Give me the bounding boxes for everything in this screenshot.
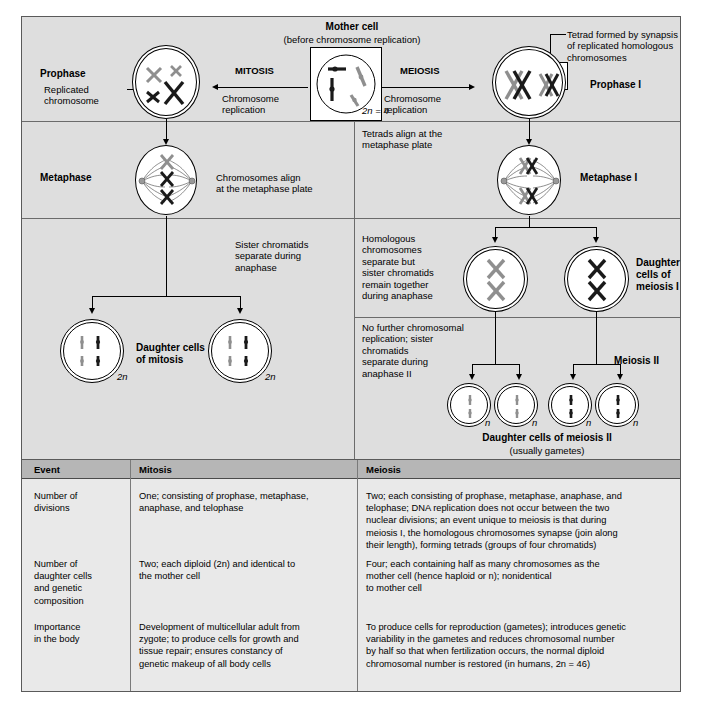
meiosis-i-branch-bar bbox=[495, 227, 596, 228]
mitosis-arrowhead bbox=[212, 84, 218, 90]
gamete-1-ploidy: n bbox=[485, 417, 490, 428]
daughter-cells-of-meiosis-ii-label: Daughter cells of meiosis II bbox=[422, 432, 672, 443]
metaphase-spindle bbox=[136, 146, 198, 216]
table-col-divider-2 bbox=[357, 460, 358, 691]
prophase-to-metaphase-line bbox=[166, 119, 167, 141]
usually-gametes-label: (usually gametes) bbox=[422, 445, 672, 456]
meiosis-i-stem bbox=[529, 216, 530, 227]
gamete-2-ploidy: n bbox=[532, 417, 537, 428]
mitosis-branch-bar bbox=[92, 296, 241, 297]
prophase-i-to-metaphase-i-line bbox=[529, 119, 530, 141]
metaphase-cell bbox=[135, 145, 197, 215]
mitosis-daughter-cell-left bbox=[60, 319, 124, 383]
tetrad-callout: Tetrad formed by synapsis of replicated … bbox=[567, 29, 685, 63]
meiosis-i-right-chromosomes bbox=[565, 247, 630, 313]
no-further-replication-note: No further chromosomal replication; sist… bbox=[362, 322, 472, 379]
row-divider-2 bbox=[22, 218, 680, 219]
daughter-cells-of-mitosis-label: Daughter cells of mitosis bbox=[136, 342, 206, 366]
replicated-chromosome-callout: Replicated chromosome bbox=[44, 84, 132, 107]
prophase-cell bbox=[132, 45, 200, 119]
metaphase-note: Chromosomes align at the metaphase plate bbox=[216, 172, 346, 195]
table-row: Two; each consisting of prophase, metaph… bbox=[366, 490, 676, 551]
table-row: Importance in the body bbox=[34, 621, 126, 645]
mitosis-daughter-cell-right bbox=[208, 319, 272, 383]
meiosis-ii-stem-right bbox=[596, 311, 597, 364]
meiosis-ii-stem-left bbox=[495, 311, 496, 364]
meiosis-arrow-line bbox=[382, 87, 469, 88]
gamete-3-ploidy: n bbox=[586, 417, 591, 428]
mitosis-branch-stem bbox=[166, 216, 167, 296]
table-row: Development of multicellular adult from … bbox=[139, 621, 351, 670]
table-row: To produce cells for reproduction (gamet… bbox=[366, 621, 676, 670]
mother-cell-title: Mother cell bbox=[277, 21, 427, 32]
mitosis-arrow-line bbox=[218, 87, 308, 88]
meiosis-arrow-label: MEIOSIS bbox=[400, 65, 440, 76]
table-row: Two; each diploid (2n) and identical to … bbox=[139, 558, 351, 582]
mitosis-arrow-label: MITOSIS bbox=[235, 65, 274, 76]
meiosis-ii-bar-left bbox=[472, 364, 519, 365]
row-divider-3 bbox=[354, 317, 680, 318]
table-row: Four; each containing half as many chrom… bbox=[366, 558, 676, 595]
metaphase-i-stage-label: Metaphase I bbox=[580, 172, 637, 183]
table-col-divider-1 bbox=[130, 460, 131, 691]
metaphase-stage-label: Metaphase bbox=[40, 172, 92, 183]
table-row: Number of divisions bbox=[34, 490, 126, 514]
daughter-cells-of-meiosis-i-label: Daughter cells of meiosis I bbox=[636, 257, 688, 293]
comparison-table: Event Mitosis Meiosis Number of division… bbox=[21, 459, 681, 692]
mitosis-daughter-left-arrow bbox=[89, 308, 95, 314]
table-row: One; consisting of prophase, metaphase, … bbox=[139, 490, 351, 514]
prophase-i-stage-label: Prophase I bbox=[590, 79, 641, 90]
homologous-separation-note: Homologous chromosomes separate but sist… bbox=[362, 233, 450, 301]
mitosis-daughter-right-ploidy: 2n bbox=[265, 371, 276, 382]
meiosis-i-left-arrow bbox=[492, 237, 498, 243]
prophase-stage-label: Prophase bbox=[40, 68, 86, 79]
meiosis-i-daughter-left bbox=[463, 246, 528, 312]
meiosis-arrowhead bbox=[469, 84, 475, 90]
prophase-chromosomes bbox=[133, 46, 201, 120]
metaphase-i-cell bbox=[497, 145, 561, 215]
meiosis-ii-arrow-4 bbox=[617, 374, 623, 380]
mitosis-daughter-left-ploidy: 2n bbox=[117, 371, 128, 382]
prophase-i-cell bbox=[492, 46, 566, 119]
column-divider bbox=[354, 121, 355, 459]
table-row: Number of daughter cells and genetic com… bbox=[34, 558, 126, 607]
daughter-cell-right-chromosomes bbox=[209, 320, 273, 384]
table-header-meiosis: Meiosis bbox=[366, 464, 401, 475]
meiosis-ii-bar-right bbox=[573, 364, 620, 365]
prophase-i-chromosomes bbox=[493, 47, 567, 120]
meiosis-ii-arrow-3 bbox=[570, 374, 576, 380]
figure-page: Mother cell (before chromosome replicati… bbox=[0, 0, 702, 717]
meiosis-ii-arrow-1 bbox=[469, 374, 475, 380]
mother-cell-subtitle: (before chromosome replication) bbox=[247, 34, 457, 45]
sister-chromatid-note: Sister chromatids separate during anapha… bbox=[235, 239, 345, 273]
meiosis-i-right-arrow bbox=[593, 237, 599, 243]
mitosis-daughter-right-arrow bbox=[237, 308, 243, 314]
metaphase-i-note: Tetrads align at the metaphase plate bbox=[362, 128, 482, 151]
tetrad-leader-h bbox=[550, 34, 566, 35]
meiosis-replication-label: Chromosome replication bbox=[384, 93, 474, 116]
metaphase-i-spindle bbox=[498, 146, 562, 216]
table-header-mitosis: Mitosis bbox=[139, 464, 172, 475]
mitosis-replication-label: Chromosome replication bbox=[222, 93, 312, 116]
table-header-row bbox=[22, 460, 680, 479]
table-header-event: Event bbox=[34, 464, 60, 475]
meiosis-ii-arrow-2 bbox=[516, 374, 522, 380]
meiosis-i-daughter-right bbox=[564, 246, 629, 312]
daughter-cell-left-chromosomes bbox=[61, 320, 125, 384]
gamete-4-ploidy: n bbox=[633, 417, 638, 428]
meiosis-i-left-chromosomes bbox=[464, 247, 529, 313]
